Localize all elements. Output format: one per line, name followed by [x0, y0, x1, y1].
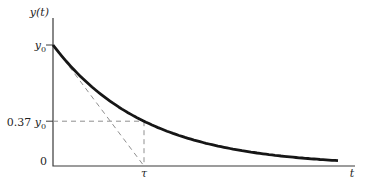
decay-level-label: 0.37 y0	[7, 116, 46, 131]
exponential-decay-figure: y(t) y0 0.37 y0 0 τ t	[0, 0, 369, 185]
y0-label-subscript: 0	[41, 45, 46, 54]
decay-level-subscript: 0	[41, 122, 46, 131]
tau-label: τ	[141, 167, 148, 180]
decay-chart-svg: y(t) y0 0.37 y0 0 τ t	[0, 0, 369, 185]
y0-label: y0	[34, 39, 46, 54]
decay-level-number: 0.37	[7, 116, 35, 129]
t-axis-label: t	[350, 167, 355, 180]
decay-curve	[53, 45, 338, 161]
y-axis-label: y(t)	[29, 6, 49, 19]
origin-label: 0	[40, 155, 47, 168]
